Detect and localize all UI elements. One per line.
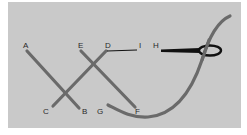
label-i: I: [139, 41, 141, 50]
label-b: B: [82, 107, 87, 116]
label-f: F: [135, 107, 140, 116]
label-d: D: [105, 41, 111, 50]
needle-icon: [161, 46, 221, 56]
label-g: G: [97, 107, 103, 116]
strand-g-curve: [108, 16, 230, 117]
label-c: C: [43, 107, 49, 116]
strand-c-d: [53, 51, 106, 106]
label-h: H: [153, 41, 159, 50]
thread-d-i: [107, 50, 137, 51]
stitch-diagram: A B C D E F G H I: [0, 0, 247, 135]
label-a: A: [23, 41, 29, 50]
strand-e-f: [81, 51, 135, 107]
strand-a-b: [27, 51, 79, 108]
label-e: E: [78, 41, 83, 50]
